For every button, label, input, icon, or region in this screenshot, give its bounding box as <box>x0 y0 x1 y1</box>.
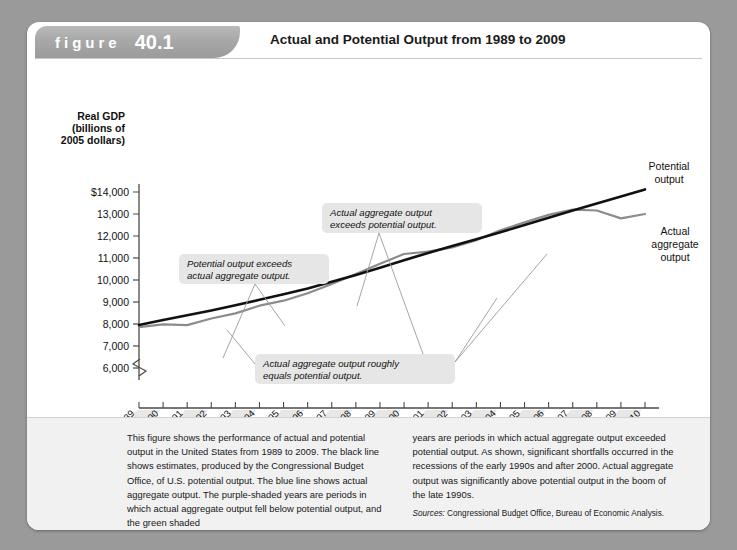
callout-text-actual-equals-potential: Actual aggregate output roughly <box>262 358 400 369</box>
y-tick-label: 12,000 <box>97 230 129 242</box>
callout-leader-line <box>455 254 547 362</box>
callout-leader-line <box>223 284 255 358</box>
callout-leader-line <box>455 298 497 362</box>
y-tick-label: 9,000 <box>103 296 129 308</box>
potential-output-label: Potential <box>649 160 690 172</box>
y-tick-label: 7,000 <box>103 340 129 352</box>
sources-text: Congressional Budget Office, Bureau of E… <box>445 509 664 518</box>
callout-leader-line <box>379 233 423 354</box>
callout-text-actual-exceeds-potential: Actual aggregate output <box>329 207 432 218</box>
caption-text-right: years are periods in which actual aggreg… <box>413 431 677 502</box>
line-chart: $14,00013,00012,00011,00010,0009,0008,00… <box>27 58 710 418</box>
figure-word-label: figure <box>55 34 121 51</box>
caption-sources: Sources: Congressional Budget Office, Bu… <box>413 508 677 519</box>
potential-output-label: output <box>654 173 683 185</box>
sources-label: Sources: <box>413 509 445 518</box>
chart-area: $14,00013,00012,00011,00010,0009,0008,00… <box>27 58 710 418</box>
figure-caption: This figure shows the performance of act… <box>27 417 710 530</box>
callout-leader-line <box>227 330 255 364</box>
y-axis-title: Real GDP <box>77 110 125 122</box>
y-axis-title: (billions of <box>72 122 126 134</box>
y-tick-label: 6,000 <box>103 362 129 374</box>
figure-number-banner: figure 40.1 <box>35 26 240 58</box>
actual-output-label: output <box>660 251 689 263</box>
figure-title: Actual and Potential Output from 1989 to… <box>270 32 566 47</box>
y-tick-label: 13,000 <box>97 208 129 220</box>
caption-column-left: This figure shows the performance of act… <box>127 431 391 530</box>
actual-output-label: Actual <box>660 225 689 237</box>
y-tick-label: 8,000 <box>103 318 129 330</box>
callout-text-potential-exceeds-actual: actual aggregate output. <box>187 270 290 281</box>
y-axis-title: 2005 dollars) <box>61 134 125 146</box>
caption-column-right: years are periods in which actual aggreg… <box>413 431 677 530</box>
figure-number-label: 40.1 <box>135 31 174 54</box>
y-tick-label: 11,000 <box>98 252 129 264</box>
actual-output-label: aggregate <box>651 238 698 250</box>
callout-text-actual-equals-potential: equals potential output. <box>263 370 362 381</box>
figure-header: figure 40.1 Actual and Potential Output … <box>27 22 710 58</box>
callout-text-potential-exceeds-actual: Potential output exceeds <box>187 258 292 269</box>
y-tick-label: $14,000 <box>91 186 129 198</box>
figure-card: figure 40.1 Actual and Potential Output … <box>27 22 710 530</box>
callout-text-actual-exceeds-potential: exceeds potential output. <box>330 219 437 230</box>
caption-text-left: This figure shows the performance of act… <box>127 431 391 530</box>
y-tick-label: 10,000 <box>97 274 129 286</box>
